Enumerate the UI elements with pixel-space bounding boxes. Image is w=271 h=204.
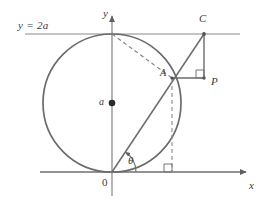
right-angle-marker-at-foot (164, 164, 172, 172)
point-c-dot (202, 32, 206, 36)
label-angle-theta: θ (128, 155, 133, 166)
point-a-dot (170, 76, 173, 79)
label-y-axis: y (103, 8, 108, 19)
label-line-equation: y = 2a (18, 20, 49, 31)
label-point-a: A (160, 68, 166, 78)
label-x-axis: x (249, 180, 254, 191)
geometry-figure: y = 2a y x 0 a A C P θ (0, 0, 271, 204)
label-origin: 0 (102, 177, 108, 188)
circle-center-dot (109, 100, 116, 107)
label-point-c: C (199, 13, 206, 24)
point-p-dot (202, 76, 205, 79)
label-point-p: P (211, 76, 218, 87)
label-radius-a: a (99, 97, 104, 107)
ray-origin-to-c (112, 34, 204, 172)
